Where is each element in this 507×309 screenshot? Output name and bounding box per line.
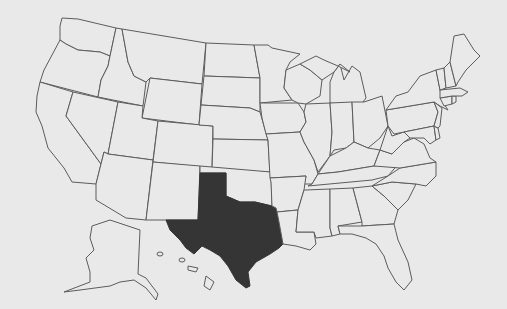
state-montana[interactable] — [122, 29, 206, 84]
state-iowa[interactable] — [260, 103, 306, 134]
state-hawaii-kauai[interactable] — [179, 258, 185, 262]
state-alaska[interactable] — [64, 220, 158, 300]
state-colorado[interactable] — [153, 121, 213, 168]
state-arizona[interactable] — [96, 152, 153, 220]
state-new-mexico[interactable] — [146, 162, 200, 220]
state-hawaii-maui[interactable] — [188, 266, 198, 272]
us-map — [0, 0, 507, 309]
state-hawaii-oahu[interactable] — [157, 252, 163, 256]
state-rhode-island[interactable] — [452, 96, 456, 104]
state-north-dakota[interactable] — [204, 43, 260, 78]
state-florida[interactable] — [338, 224, 412, 290]
state-wyoming[interactable] — [142, 78, 202, 125]
state-ohio[interactable] — [352, 96, 388, 148]
state-massachusetts[interactable] — [440, 88, 468, 98]
state-kansas[interactable] — [212, 139, 270, 172]
state-hawaii-big-island[interactable] — [204, 276, 214, 290]
state-maine[interactable] — [450, 34, 480, 86]
